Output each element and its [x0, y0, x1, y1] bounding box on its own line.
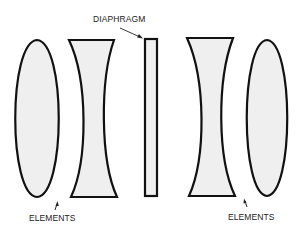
elements-right-label: ELEMENTS: [228, 212, 275, 222]
left-convex-element: [15, 40, 59, 197]
diaphragm-arrowhead-icon: [137, 34, 143, 39]
diaphragm-plate: [145, 39, 157, 196]
left-concave-element: [69, 40, 117, 197]
right-concave-element: [187, 38, 235, 196]
diaphragm-label: DIAPHRAGM: [93, 14, 145, 24]
lens-diagram: DIAPHRAGM ELEMENTS ELEMENTS: [0, 0, 297, 234]
right-convex-element: [247, 40, 288, 196]
diaphragm-arrow: [120, 28, 140, 37]
elements-right-arrowhead-icon: [244, 199, 247, 204]
elements-left-label: ELEMENTS: [29, 213, 76, 223]
elements-left-arrowhead-icon: [56, 201, 59, 206]
